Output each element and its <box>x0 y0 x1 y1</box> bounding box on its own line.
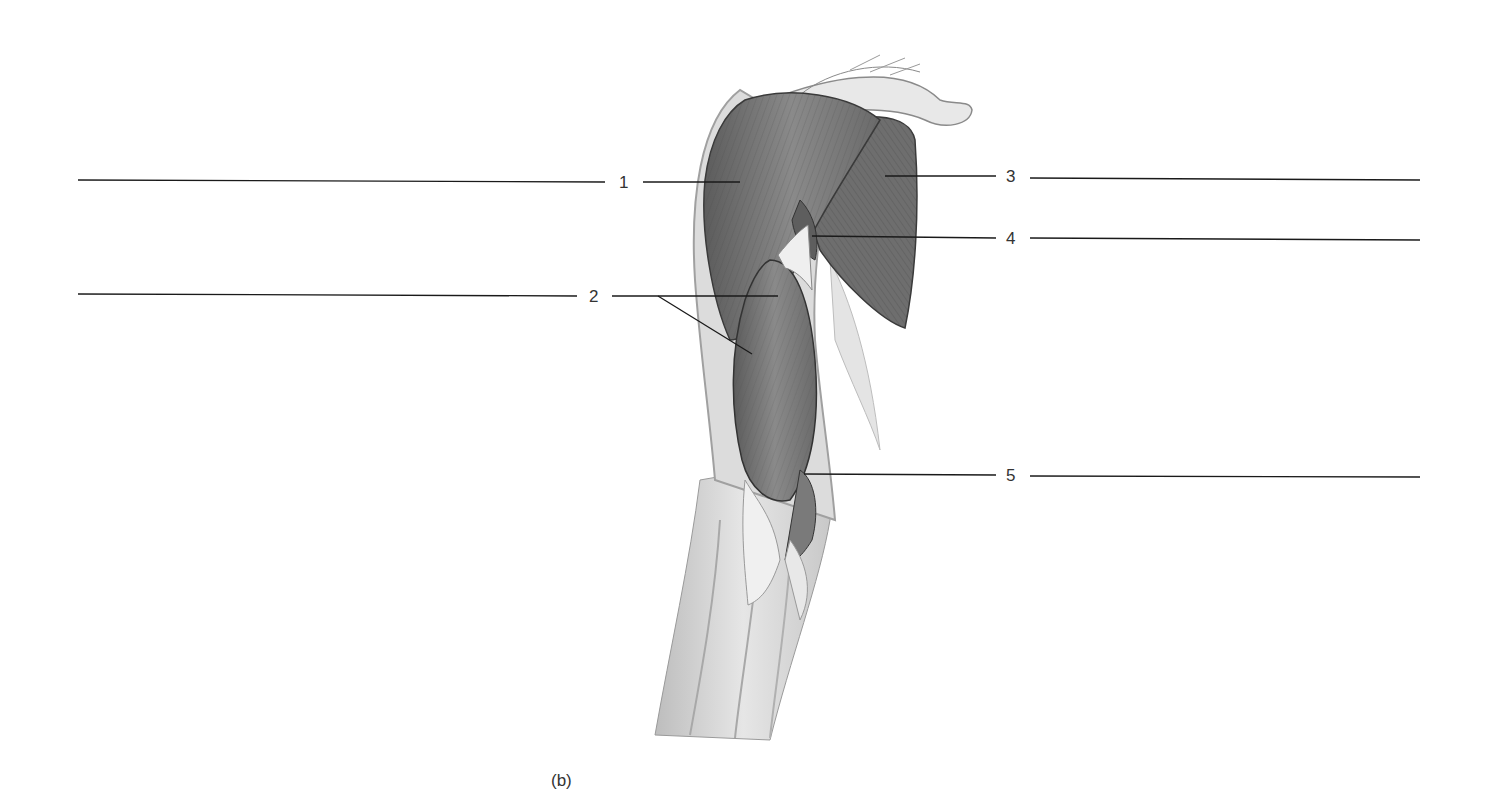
label-4: 4 <box>1006 230 1015 247</box>
label-5: 5 <box>1006 467 1015 484</box>
figure-caption: (b) <box>551 771 572 791</box>
label-3: 3 <box>1006 168 1015 185</box>
label-2: 2 <box>589 288 598 305</box>
label-1: 1 <box>619 174 628 191</box>
arm-illustration <box>0 0 1489 805</box>
